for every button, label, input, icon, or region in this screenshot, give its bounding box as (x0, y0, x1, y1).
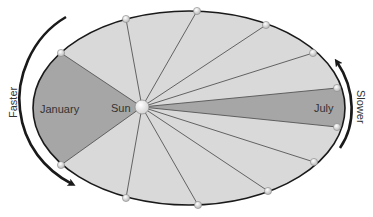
sun-label: Sun (111, 102, 131, 114)
orbit-point (57, 49, 64, 56)
orbit-point (194, 201, 201, 208)
orbit-point (333, 123, 340, 130)
orbit-point (309, 49, 316, 56)
orbit-point (122, 194, 129, 201)
orbit-point (57, 161, 64, 168)
orbit-point (333, 84, 340, 91)
faster-label: Faster (7, 86, 19, 118)
orbit-point (310, 158, 317, 165)
sun-icon (135, 100, 149, 114)
kepler-orbit-diagram: January Sun July Faster Slower (0, 0, 373, 217)
orbit-point (262, 21, 269, 28)
slower-label: Slower (355, 90, 367, 124)
orbit-point (122, 15, 129, 22)
july-label: July (314, 102, 334, 114)
orbit-point (264, 187, 271, 194)
january-label: January (40, 103, 80, 115)
orbit-point (193, 7, 200, 14)
